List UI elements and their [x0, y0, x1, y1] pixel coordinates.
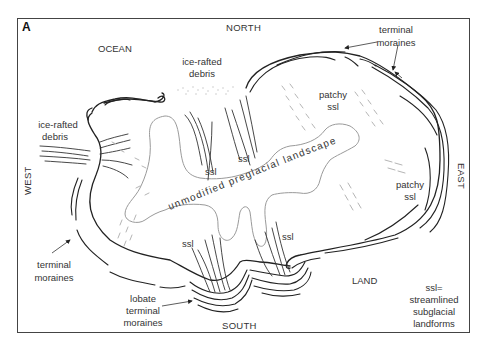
label-patchy-ssl-north-1: patchy: [319, 89, 347, 100]
label-terminal-moraines-w-1: terminal: [37, 259, 71, 270]
label-terminal-moraines-ne-1: terminal: [379, 24, 413, 35]
legend-line-1: ssl=: [425, 282, 443, 293]
label-terminal-moraines-ne-2: moraines: [376, 37, 415, 48]
region-land: LAND: [352, 275, 377, 286]
legend-line-3: subglacial: [413, 306, 455, 317]
label-lobate-3: moraines: [123, 317, 162, 328]
label-patchy-ssl-north-2: ssl: [327, 101, 339, 112]
label-ssl-2: ssl: [238, 153, 250, 164]
region-ocean: OCEAN: [98, 43, 132, 54]
legend-line-2: streamlined: [409, 294, 458, 305]
direction-north: NORTH: [226, 22, 261, 33]
panel-label: A: [22, 20, 31, 34]
direction-south: SOUTH: [222, 320, 257, 331]
label-patchy-ssl-east-1: patchy: [396, 179, 424, 190]
label-ssl-3: ssl: [182, 238, 194, 249]
label-ice-rafted-debris-west-1: ice-rafted: [38, 119, 78, 130]
direction-east: EAST: [456, 163, 467, 189]
ice-sheet-diagram: A: [0, 0, 483, 349]
label-ssl-1: ssl: [205, 166, 217, 177]
label-ice-rafted-debris-north-1: ice-rafted: [182, 56, 222, 67]
label-ssl-4: ssl: [282, 231, 294, 242]
label-ice-rafted-debris-north-2: debris: [189, 68, 215, 79]
leader-arrows: [52, 42, 402, 306]
label-lobate-1: lobate: [130, 293, 156, 304]
label-lobate-2: terminal: [126, 305, 160, 316]
legend-line-4: landforms: [413, 318, 455, 329]
label-ice-rafted-debris-west-2: debris: [42, 131, 68, 142]
label-terminal-moraines-w-2: moraines: [34, 272, 73, 283]
label-patchy-ssl-east-2: ssl: [404, 191, 416, 202]
ice-rafted-debris-north-dots: [177, 86, 233, 94]
ice-rafted-debris-west-lines: [40, 146, 90, 164]
direction-west: WEST: [22, 166, 33, 195]
